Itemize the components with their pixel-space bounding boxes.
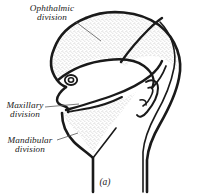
head-profile-illustration <box>0 0 205 196</box>
label-maxillary-line2: division <box>1 110 49 119</box>
label-mandibular-division: Mandibular division <box>1 136 59 155</box>
anatomical-figure: Ophthalmic division Maxillary division M… <box>0 0 205 196</box>
figure-caption: (a) <box>92 177 118 187</box>
label-ophthalmic-line2: division <box>23 13 81 22</box>
label-ophthalmic-division: Ophthalmic division <box>23 4 81 23</box>
maxillary-lower-edge <box>152 66 166 88</box>
eye <box>65 75 77 85</box>
label-mandibular-line2: division <box>1 145 59 154</box>
nose-profile <box>57 87 68 112</box>
label-maxillary-division: Maxillary division <box>1 101 49 120</box>
